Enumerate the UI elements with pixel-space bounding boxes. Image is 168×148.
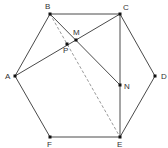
hexagon-diagram: ABCDEFMNP bbox=[0, 0, 168, 148]
label-p: P bbox=[63, 46, 68, 55]
segment-be bbox=[50, 14, 120, 137]
label-m: M bbox=[73, 28, 80, 37]
point-e bbox=[119, 136, 122, 139]
label-e: E bbox=[117, 140, 122, 148]
point-d bbox=[154, 75, 157, 78]
segment-ab bbox=[15, 14, 50, 76]
label-b: B bbox=[45, 2, 50, 11]
point-n bbox=[119, 84, 122, 87]
point-f bbox=[49, 136, 52, 139]
point-b bbox=[49, 13, 52, 16]
label-n: N bbox=[124, 82, 130, 91]
point-a bbox=[14, 75, 17, 78]
segment-cd bbox=[120, 14, 155, 76]
segment-fa bbox=[15, 76, 50, 137]
label-f: F bbox=[47, 140, 52, 148]
point-m bbox=[75, 39, 78, 42]
label-d: D bbox=[161, 72, 167, 81]
point-c bbox=[119, 13, 122, 16]
label-a: A bbox=[5, 72, 11, 81]
label-c: C bbox=[123, 3, 129, 12]
